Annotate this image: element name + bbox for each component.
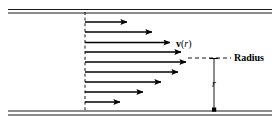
velocity-function-label: v(r) bbox=[176, 39, 192, 49]
velocity-profile-figure: v(r) Radius r bbox=[0, 0, 278, 125]
radial-coordinate-label: r bbox=[212, 79, 216, 89]
radius-label: Radius bbox=[234, 53, 264, 63]
pipe-bottom-wall bbox=[8, 111, 272, 115]
velocity-arrow-group bbox=[85, 22, 186, 102]
velocity-paren-close: ) bbox=[188, 38, 191, 49]
radius-dimension-bottom-cap bbox=[212, 108, 216, 112]
pipe-top-wall bbox=[8, 10, 272, 14]
